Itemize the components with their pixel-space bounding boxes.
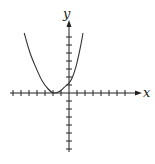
y-axis-label: y — [62, 6, 71, 21]
x-axis-arrow-icon — [135, 91, 142, 96]
coordinate-graph: x y — [0, 0, 155, 164]
parabola-curve — [24, 33, 83, 93]
x-axis-label: x — [143, 85, 151, 100]
y-axis-arrow-icon — [67, 20, 72, 27]
